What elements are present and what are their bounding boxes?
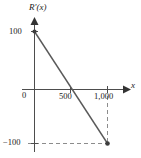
y-axis-label: R′(x)	[29, 3, 46, 12]
origin-label: 0	[22, 91, 26, 100]
point-marker-y-intercept	[32, 29, 36, 33]
y-axis-arrow-icon	[31, 17, 39, 25]
marginal-revenue-figure: 100 −100 0 500 1,000 R′(x) x	[0, 0, 141, 158]
y-tick-label-neg100: −100	[3, 138, 21, 147]
x-tick-label-500: 500	[59, 92, 72, 101]
y-tick-label-100: 100	[9, 27, 22, 36]
x-axis-arrow-icon	[123, 86, 131, 94]
graph-canvas	[0, 0, 141, 158]
revenue-derivative-line	[35, 32, 108, 144]
x-tick-label-1000: 1,000	[94, 92, 113, 101]
x-axis-label: x	[131, 81, 135, 90]
point-marker-endpoint	[105, 141, 110, 146]
